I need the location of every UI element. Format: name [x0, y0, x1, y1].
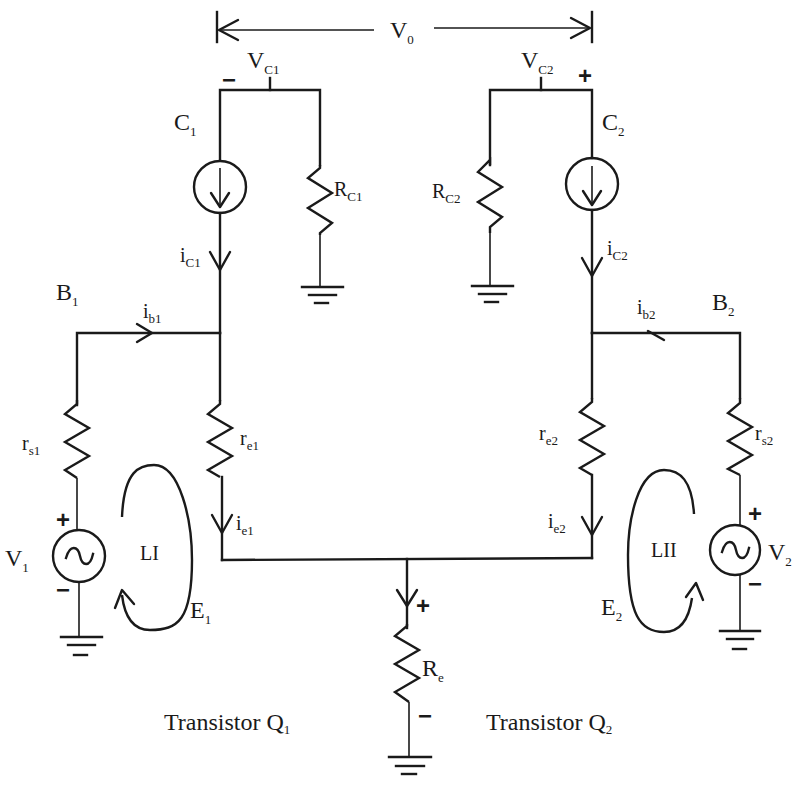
transistor-q1-caption: Transistor Q1 [164, 709, 290, 737]
collector-section-right: VC2 + C2 iC2 RC2 [432, 47, 628, 333]
ground-icon [389, 757, 431, 774]
collector-rail-right [490, 90, 592, 165]
vc1-polarity: − [222, 66, 236, 93]
transistor-q2-input: B2 ib2 rs2 + − V2 LII E2 re2 ie2 [539, 289, 792, 649]
v2-label: V2 [768, 539, 792, 569]
v2-plus-sign: + [748, 500, 762, 527]
base-b1-label: B1 [56, 279, 79, 309]
ib2-label: ib2 [637, 296, 656, 322]
ic2-label: iC2 [607, 237, 628, 263]
re2-label: re2 [539, 422, 558, 448]
common-emitter-section: + Re − [222, 558, 592, 774]
emf-e1-label: E1 [190, 597, 211, 627]
ie2-label: ie2 [548, 510, 566, 536]
rs1-label: rs1 [22, 432, 40, 458]
ground-icon [720, 631, 760, 649]
ic1-label: iC1 [180, 244, 201, 270]
collector-section-left: VC1 − C1 iC1 RC1 [174, 47, 363, 333]
ground-icon [472, 286, 513, 302]
ground-icon [302, 287, 343, 303]
collector-c2-label: C2 [602, 109, 625, 139]
resistor-re [395, 624, 419, 702]
output-voltage-indicator: V0 [217, 12, 592, 47]
resistor-re1 [208, 400, 232, 477]
resistor-rc2 [478, 160, 502, 233]
resistor-rs1 [65, 400, 89, 478]
collector-rail-left [220, 90, 320, 165]
transistor-q2-caption: Transistor Q2 [486, 709, 612, 737]
ground-icon [61, 637, 102, 655]
loop-li-label: LI [140, 542, 159, 564]
v1-plus-sign: + [56, 506, 70, 533]
vc2-label: VC2 [521, 47, 554, 77]
v1-label: V1 [5, 545, 29, 575]
re-label: Re [422, 655, 444, 685]
re-plus-sign: + [416, 592, 430, 619]
base-b2-label: B2 [712, 289, 735, 319]
base-wire-b1 [77, 333, 220, 405]
rc2-label: RC2 [432, 180, 461, 206]
transistor-q1-input: B1 ib1 rs1 + − V1 LI E1 re1 ie1 [5, 279, 259, 655]
emf-e2-label: E2 [601, 594, 622, 624]
resistor-re2 [580, 398, 604, 475]
rs2-label: rs2 [755, 422, 773, 448]
v2-minus-sign: − [748, 570, 762, 597]
re1-label: re1 [240, 427, 259, 453]
v1-minus-sign: − [56, 576, 70, 603]
vc1-label: VC1 [247, 47, 280, 77]
collector-c1-label: C1 [174, 109, 197, 139]
rc1-label: RC1 [334, 178, 363, 204]
vc2-polarity: + [578, 62, 592, 89]
v0-label: V0 [390, 17, 414, 47]
loop-lii-label: LII [651, 539, 677, 561]
circuit-diagram: V0 VC1 − C1 iC1 RC1 VC2 + C2 [0, 0, 806, 803]
loop-lii-arrow-icon [686, 583, 703, 600]
re-minus-sign: − [418, 702, 432, 729]
ib1-label: ib1 [143, 300, 162, 326]
resistor-rs2 [728, 398, 752, 475]
base-wire-b2 [592, 333, 740, 398]
resistor-rc1 [308, 165, 332, 235]
ie1-label: ie1 [236, 512, 254, 538]
sine-wave-icon [722, 542, 749, 558]
sine-wave-icon [66, 548, 93, 564]
